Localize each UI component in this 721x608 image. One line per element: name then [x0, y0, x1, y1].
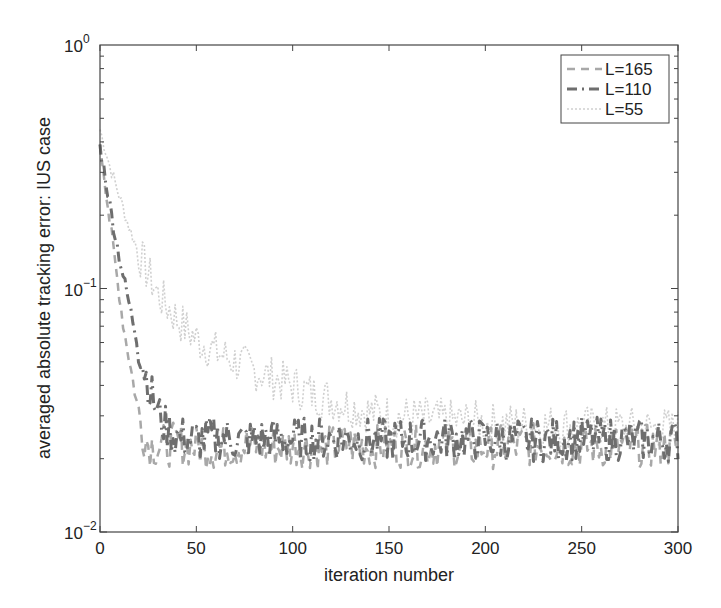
- legend-label-l110: L=110: [605, 80, 651, 99]
- legend-label-l165: L=165: [605, 60, 653, 79]
- y-tick-label: 100: [64, 32, 90, 56]
- x-tick-label: 300: [664, 539, 692, 558]
- x-axis-label: iteration number: [324, 565, 454, 585]
- chart-canvas: 050100150200250300 10010−110−2 iteration…: [0, 0, 721, 608]
- x-tick-label: 50: [187, 539, 206, 558]
- x-axis-tick-labels: 050100150200250300: [95, 539, 692, 558]
- y-axis-tick-labels: 10010−110−2: [64, 32, 97, 543]
- legend-label-l55: L=55: [605, 100, 643, 119]
- x-tick-label: 150: [375, 539, 403, 558]
- x-tick-label: 100: [278, 539, 306, 558]
- y-tick-label: 10−1: [64, 276, 97, 300]
- legend: L=165 L=110 L=55: [561, 55, 669, 123]
- y-tick-label: 10−2: [64, 519, 97, 543]
- y-axis-label: averaged absolute tracking error: IUS ca…: [34, 117, 54, 459]
- x-tick-label: 200: [471, 539, 499, 558]
- x-tick-label: 250: [567, 539, 595, 558]
- x-tick-label: 0: [95, 539, 104, 558]
